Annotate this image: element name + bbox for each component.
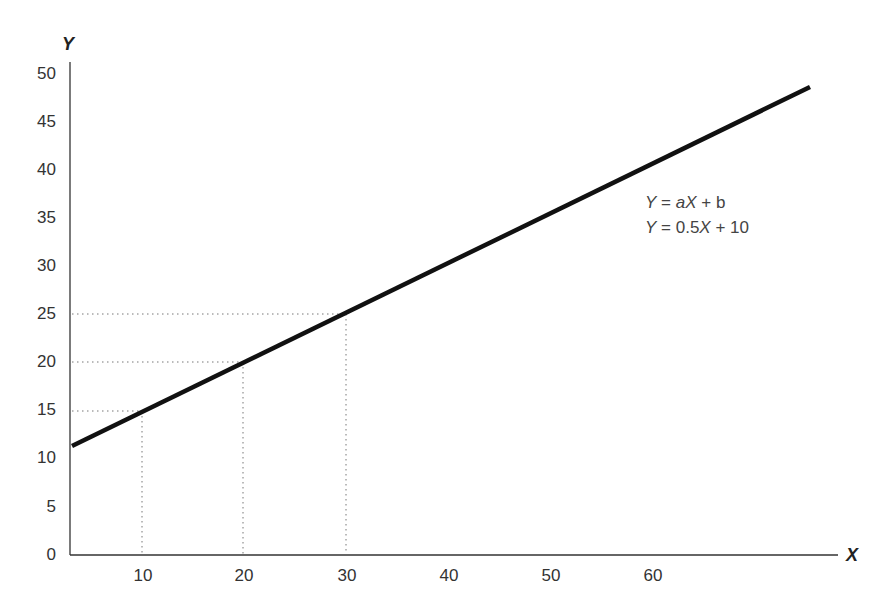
equation-specific: Y = 0.5X + 10 bbox=[645, 218, 749, 237]
y-tick: 20 bbox=[37, 352, 56, 371]
x-tick: 60 bbox=[644, 566, 663, 585]
x-tick: 50 bbox=[542, 566, 561, 585]
y-tick: 30 bbox=[37, 256, 56, 275]
y-tick: 50 bbox=[37, 64, 56, 83]
x-axis-label: X bbox=[845, 545, 859, 565]
equation-general: Y = aX + b bbox=[645, 193, 725, 212]
y-axis-label: Y bbox=[62, 34, 76, 54]
y-tick: 15 bbox=[37, 400, 56, 419]
y-tick-labels: 0 5 10 15 20 25 30 35 40 45 50 bbox=[37, 64, 56, 564]
regression-line bbox=[72, 87, 810, 446]
reference-guides bbox=[72, 314, 346, 554]
x-tick: 40 bbox=[440, 566, 459, 585]
y-tick: 10 bbox=[37, 448, 56, 467]
chart-canvas: Y X 0 5 10 15 20 25 30 35 40 45 50 10 20… bbox=[0, 0, 890, 610]
y-tick: 45 bbox=[37, 112, 56, 131]
y-tick: 5 bbox=[47, 497, 56, 516]
x-tick: 30 bbox=[338, 566, 357, 585]
y-tick: 25 bbox=[37, 304, 56, 323]
x-tick: 10 bbox=[134, 566, 153, 585]
y-tick: 35 bbox=[37, 208, 56, 227]
x-tick: 20 bbox=[235, 566, 254, 585]
y-tick: 0 bbox=[47, 545, 56, 564]
x-tick-labels: 10 20 30 40 50 60 bbox=[134, 566, 663, 585]
y-tick: 40 bbox=[37, 160, 56, 179]
